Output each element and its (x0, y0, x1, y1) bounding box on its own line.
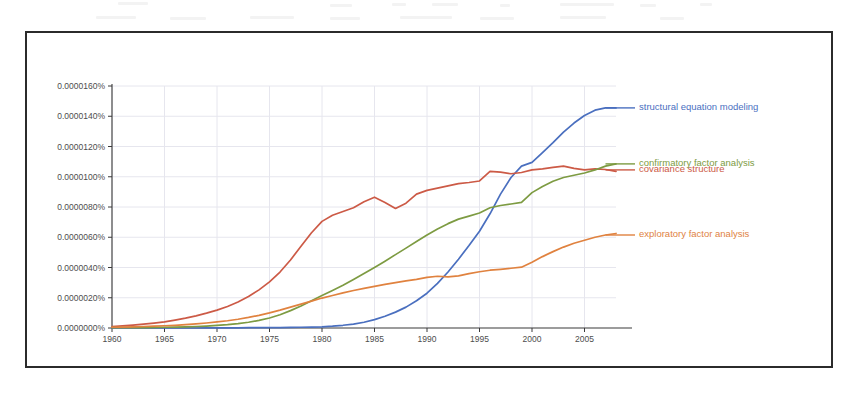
y-tick-label: 0.0000020% (57, 293, 105, 303)
x-tick-label: 1995 (470, 334, 489, 344)
x-tick-label: 1985 (365, 334, 384, 344)
x-tick-label: 1980 (313, 334, 332, 344)
series-label-2[interactable]: confirmatory factor analysis (639, 157, 755, 168)
plot-area[interactable]: 0.0000160%0.0000140%0.0000120%0.0000100%… (27, 33, 831, 366)
series-label-3[interactable]: exploratory factor analysis (639, 228, 750, 239)
x-tick-label: 1965 (155, 334, 174, 344)
y-axis-ticks (108, 86, 112, 328)
series-line-0[interactable] (112, 108, 616, 328)
x-tick-label: 1990 (418, 334, 437, 344)
ngram-line-chart[interactable]: 0.0000160%0.0000140%0.0000120%0.0000100%… (27, 33, 831, 366)
y-tick-label: 0.0000060% (57, 232, 105, 242)
x-tick-label: 1960 (103, 334, 122, 344)
y-tick-label: 0.0000140% (57, 111, 105, 121)
y-tick-label: 0.0000100% (57, 172, 105, 182)
y-tick-label: 0.0000120% (57, 142, 105, 152)
series-line-3[interactable] (112, 233, 616, 327)
x-tick-label: 1975 (260, 334, 279, 344)
series-label-0[interactable]: structural equation modeling (639, 101, 758, 112)
axes (112, 84, 632, 328)
scan-artifacts (0, 0, 859, 26)
x-tick-label: 2005 (575, 334, 594, 344)
y-tick-label: 0.0000160% (57, 81, 105, 91)
series-line-2[interactable] (112, 164, 616, 328)
y-tick-label: 0.0000000% (57, 323, 105, 333)
ngram-chart-frame: 0.0000160%0.0000140%0.0000120%0.0000100%… (25, 31, 833, 368)
series-lines[interactable] (112, 108, 616, 328)
x-axis-tick-labels: 1960196519701975198019851990199520002005 (103, 334, 595, 344)
x-tick-label: 1970 (208, 334, 227, 344)
series-leader-lines (606, 108, 636, 235)
y-tick-label: 0.0000080% (57, 202, 105, 212)
y-tick-label: 0.0000040% (57, 263, 105, 273)
x-tick-label: 2000 (523, 334, 542, 344)
grid-lines (112, 86, 616, 298)
series-inline-labels[interactable]: structural equation modelingcovariance s… (639, 101, 758, 239)
y-axis-tick-labels: 0.0000160%0.0000140%0.0000120%0.0000100%… (57, 81, 105, 333)
series-line-1[interactable] (112, 166, 616, 326)
